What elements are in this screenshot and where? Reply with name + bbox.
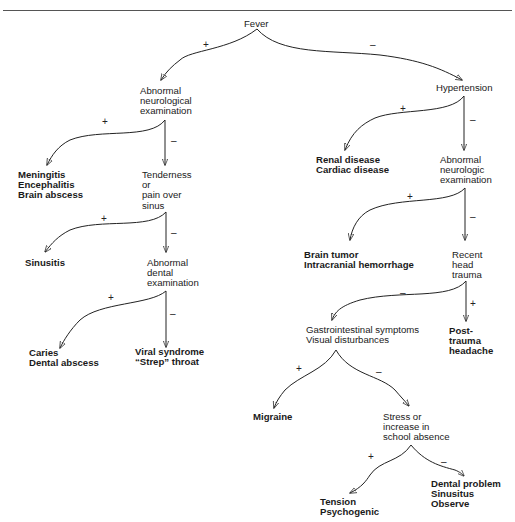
sign-abn-neuro-minus: – [171,136,177,146]
sign-fever-minus: – [370,40,376,50]
sign-head-trauma-plus: + [470,299,476,309]
node-meningitis: Meningitis Encephalitis Brain abscess [18,170,83,201]
node-caries: Caries Dental abscess [29,348,99,368]
sign-stress-plus: + [368,452,374,462]
sign-abn-neurologic-minus: – [470,212,476,222]
node-renal-disease: Renal disease Cardiac disease [316,155,389,175]
node-post-trauma-headache: Post- trauma headache [449,326,493,357]
node-migraine: Migraine [253,412,292,422]
edge-fever-abn-neuro [161,29,257,80]
edge-stress-dental-problem [411,445,464,476]
node-viral-syndrome: Viral syndrome “Strep” throat [135,347,204,367]
edge-head-trauma-gi [332,281,466,320]
edge-gi-migraine [274,350,336,408]
sign-abn-dental-minus: – [170,309,176,319]
sign-abn-dental-plus: + [108,293,114,303]
node-recent-head-trauma: Recent head trauma [452,250,482,281]
sign-fever-plus: + [203,40,209,50]
sign-hypertension-plus: + [400,104,406,114]
node-abnormal-dental-examination: Abnormal dental examination [147,258,199,289]
node-tension-psychogenic: Tension Psychogenic [320,497,379,517]
sign-abn-neuro-plus: + [102,117,108,127]
node-fever: Fever [244,19,269,29]
sign-tenderness-plus: + [101,214,107,224]
edge-gi-stress [336,350,409,406]
sign-hypertension-minus: – [470,115,476,125]
edge-fever-hypertension [257,29,462,80]
sign-head-trauma-minus: – [400,288,406,298]
node-sinusitis: Sinusitis [25,258,65,268]
edges-layer [0,0,515,522]
node-stress-school-absence: Stress or increase in school absence [383,412,450,443]
node-abnormal-neurological-examination: Abnormal neurological examination [140,86,192,117]
node-abnormal-neurologic-examination: Abnormal neurologic examination [440,155,492,186]
node-dental-problem: Dental problem Sinusitus Observe [431,479,501,510]
sign-abn-neurologic-plus: + [407,192,413,202]
sign-gi-plus: + [296,364,302,374]
sign-tenderness-minus: – [171,228,177,238]
node-brain-tumor: Brain tumor Intracranial hemorrhage [304,250,414,270]
node-tenderness: Tenderness or pain over sinus [142,170,192,211]
node-hypertension: Hypertension [436,83,493,93]
sign-gi-minus: – [376,367,382,377]
node-gastrointestinal-symptoms: Gastrointestinal symptoms Visual disturb… [306,325,419,345]
edge-stress-tension [350,445,411,493]
sign-stress-minus: – [441,457,447,467]
